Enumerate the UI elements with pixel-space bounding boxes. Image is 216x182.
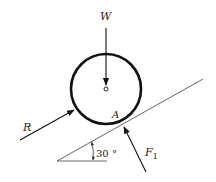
force-f1-label: F1 [144, 146, 158, 161]
force-f1-arrow [124, 127, 146, 172]
contact-point-label: A [111, 109, 119, 120]
angle-arc [92, 142, 94, 160]
force-f1-main: F [144, 146, 153, 159]
weight-label: W [100, 10, 113, 23]
free-body-diagram: 30 ° W R A F1 [0, 0, 216, 182]
angle-label: 30 ° [96, 148, 117, 159]
force-f1-subscript: 1 [153, 152, 158, 161]
center-point [104, 87, 108, 91]
incline-line [57, 79, 203, 161]
reaction-label: R [22, 121, 31, 134]
